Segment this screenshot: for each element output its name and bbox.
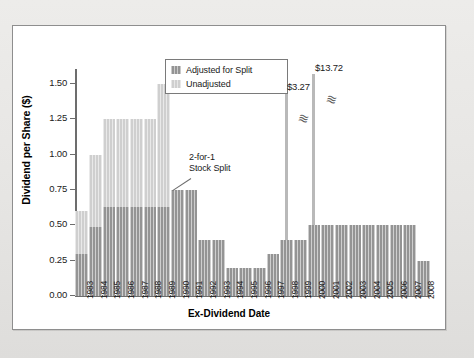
- legend-item-adjusted: Adjusted for Split: [171, 63, 282, 77]
- y-tick-mark: [70, 224, 75, 225]
- y-axis-tick-labels: 0.000.250.500.751.001.251.50: [27, 26, 67, 329]
- x-tick-label-2003: 2003: [358, 281, 368, 299]
- x-tick-label-1989: 1989: [167, 281, 177, 299]
- x-tick-label-1988: 1988: [153, 281, 163, 299]
- x-tick-label-1998: 1998: [290, 281, 300, 299]
- x-tick-label-1999: 1999: [303, 281, 313, 299]
- x-axis-title: Ex-Dividend Date: [13, 308, 445, 319]
- x-tick-label-2008: 2008: [426, 281, 436, 299]
- y-tick-label-0.75: 0.75: [33, 183, 67, 194]
- y-tick-mark: [70, 260, 75, 261]
- x-tick-label-2005: 2005: [385, 281, 395, 299]
- y-tick-label-1.50: 1.50: [33, 77, 67, 88]
- annotation-stock-split: 2-for-1 Stock Split: [189, 152, 269, 174]
- x-tick-label-2001: 2001: [331, 281, 341, 299]
- x-tick-label-1990: 1990: [181, 281, 191, 299]
- page-background: Dividend per Share ($) 0.000.250.500.751…: [0, 0, 474, 358]
- x-tick-label-1983: 1983: [85, 281, 95, 299]
- y-tick-mark: [70, 189, 75, 190]
- legend-item-unadjusted: Unadjusted: [171, 77, 282, 91]
- x-tick-label-1992: 1992: [208, 281, 218, 299]
- y-tick-label-0.25: 0.25: [33, 254, 67, 265]
- x-tick-label-1997: 1997: [276, 281, 286, 299]
- y-tick-mark: [70, 154, 75, 155]
- x-tick-label-2002: 2002: [344, 281, 354, 299]
- x-tick-label-2007: 2007: [413, 281, 423, 299]
- x-tick-label-1994: 1994: [235, 281, 245, 299]
- y-tick-label-1.25: 1.25: [33, 112, 67, 123]
- x-tick-label-2000: 2000: [317, 281, 327, 299]
- x-tick-label-1993: 1993: [222, 281, 232, 299]
- plot-area: [75, 69, 430, 296]
- legend-label-adjusted: Adjusted for Split: [186, 65, 252, 75]
- y-tick-mark: [70, 83, 75, 84]
- y-tick-label-1.00: 1.00: [33, 148, 67, 159]
- legend-label-unadjusted: Unadjusted: [186, 79, 231, 89]
- y-tick-label-0.50: 0.50: [33, 218, 67, 229]
- chart-panel: Dividend per Share ($) 0.000.250.500.751…: [12, 25, 446, 330]
- chart-legend: Adjusted for Split Unadjusted: [165, 59, 288, 94]
- legend-swatch-adjusted: [171, 66, 181, 74]
- x-tick-label-1987: 1987: [140, 281, 150, 299]
- x-tick-label-1986: 1986: [126, 281, 136, 299]
- legend-swatch-unadjusted: [171, 80, 181, 88]
- y-tick-mark: [70, 118, 75, 119]
- y-tick-mark: [70, 295, 75, 296]
- x-tick-label-1991: 1991: [194, 281, 204, 299]
- value-label-1998: $3.27: [287, 81, 310, 92]
- y-tick-label-0.00: 0.00: [33, 289, 67, 300]
- x-tick-label-1984: 1984: [99, 281, 109, 299]
- value-label-2000: $13.72: [315, 62, 343, 73]
- x-tick-label-1996: 1996: [263, 281, 273, 299]
- x-tick-label-1995: 1995: [249, 281, 259, 299]
- x-tick-label-2004: 2004: [372, 281, 382, 299]
- x-tick-label-2006: 2006: [399, 281, 409, 299]
- x-tick-label-1985: 1985: [112, 281, 122, 299]
